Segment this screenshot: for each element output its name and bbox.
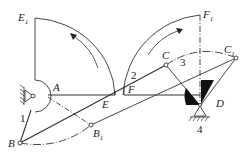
- rotation-arrow-left: [72, 35, 98, 68]
- label-e: E: [102, 99, 109, 110]
- label-f1: F1: [203, 9, 213, 23]
- label-b: B: [8, 138, 15, 149]
- crank-hub: [35, 80, 51, 112]
- label-b1: B1: [93, 128, 103, 142]
- b-path-arc: [20, 125, 91, 145]
- label-e1: E1: [18, 12, 28, 26]
- joint-b: [18, 141, 22, 145]
- label-a: A: [53, 82, 60, 93]
- label-c1: C1: [224, 44, 235, 58]
- label-link-3: 3: [180, 57, 186, 68]
- mechanism-diagram: E1 F1 A B B1 C C1 D E F 1 2 3 4: [0, 0, 246, 153]
- arrowhead-left: [70, 33, 77, 40]
- link-ab1: [48, 97, 91, 125]
- label-c: C: [162, 50, 169, 61]
- label-link-1: 1: [20, 113, 26, 124]
- label-f: F: [128, 84, 135, 95]
- label-link-4: 4: [197, 124, 203, 135]
- joint-c: [164, 63, 168, 67]
- e1-arc: [35, 18, 115, 95]
- ground-pivot-d: [194, 106, 206, 116]
- label-link-2: 2: [131, 70, 137, 81]
- wedge-right: [201, 80, 214, 104]
- joint-d: [199, 104, 202, 107]
- link-b1c1: [91, 58, 236, 125]
- label-d: D: [216, 98, 224, 109]
- wedge-left: [185, 88, 201, 105]
- joint-o: [31, 94, 35, 98]
